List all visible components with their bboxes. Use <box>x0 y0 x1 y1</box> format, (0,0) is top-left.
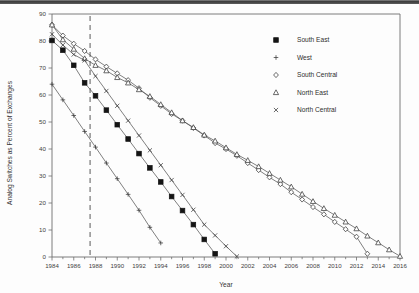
x-tick-label: 2014 <box>371 262 385 269</box>
x-tick-label: 2012 <box>350 262 364 269</box>
y-tick-label: 20 <box>39 199 46 206</box>
x-tick-label: 1988 <box>89 262 103 269</box>
x-tick-label: 1990 <box>110 262 124 269</box>
legend-item-north-central: North Central <box>274 106 337 113</box>
series-layer <box>49 22 402 258</box>
legend-label: North East <box>297 89 328 96</box>
series-south-central <box>50 22 370 256</box>
x-axis-title: Year <box>219 281 233 288</box>
y-tick-label: 70 <box>39 64 46 71</box>
y-axis-title: Analog Switches as Percent of Exchanges <box>6 80 14 205</box>
line-chart-canvas: 0102030405060708090 19841986198819901992… <box>0 4 419 293</box>
x-tick-label: 2008 <box>306 262 320 269</box>
plot-frame <box>52 14 400 257</box>
x-tick-label: 2006 <box>284 262 298 269</box>
y-tick-label: 60 <box>39 91 46 98</box>
x-tick-label: 2000 <box>219 262 233 269</box>
legend-label: North Central <box>297 106 337 113</box>
x-tick-label: 1992 <box>132 262 146 269</box>
series-south-east <box>50 38 218 256</box>
x-tick-label: 2010 <box>328 262 342 269</box>
x-tick-label: 2002 <box>241 262 255 269</box>
x-tick-label: 1994 <box>154 262 168 269</box>
legend-label: South Central <box>297 71 338 78</box>
x-tick-label: 1986 <box>67 262 81 269</box>
chart-legend: South EastWestSouth CentralNorth EastNor… <box>273 36 337 113</box>
x-tick-label: 1998 <box>197 262 211 269</box>
y-tick-label: 90 <box>39 10 46 17</box>
x-tick-label: 1996 <box>176 262 190 269</box>
chart-figure: 0102030405060708090 19841986198819901992… <box>0 4 419 293</box>
y-tick-label: 10 <box>39 226 46 233</box>
y-tick-label: 80 <box>39 37 46 44</box>
y-tick-label: 40 <box>39 145 46 152</box>
legend-item-west: West <box>274 54 312 61</box>
series-north-east <box>49 22 402 258</box>
x-tick-label: 2016 <box>393 262 407 269</box>
legend-item-south-central: South Central <box>274 71 338 78</box>
x-axis-ticks: 1984198619881990199219941996199820002002… <box>45 257 407 269</box>
y-axis-ticks: 0102030405060708090 <box>39 10 52 260</box>
legend-item-north-east: North East <box>273 89 328 96</box>
legend-label: South East <box>297 36 329 43</box>
x-tick-label: 1984 <box>45 262 59 269</box>
series-north-central <box>50 32 239 258</box>
series-west <box>50 82 163 245</box>
y-tick-label: 50 <box>39 118 46 125</box>
legend-label: West <box>297 54 312 61</box>
x-tick-label: 2004 <box>263 262 277 269</box>
y-tick-label: 0 <box>43 253 47 260</box>
legend-item-south-east: South East <box>274 36 330 43</box>
y-tick-label: 30 <box>39 172 46 179</box>
